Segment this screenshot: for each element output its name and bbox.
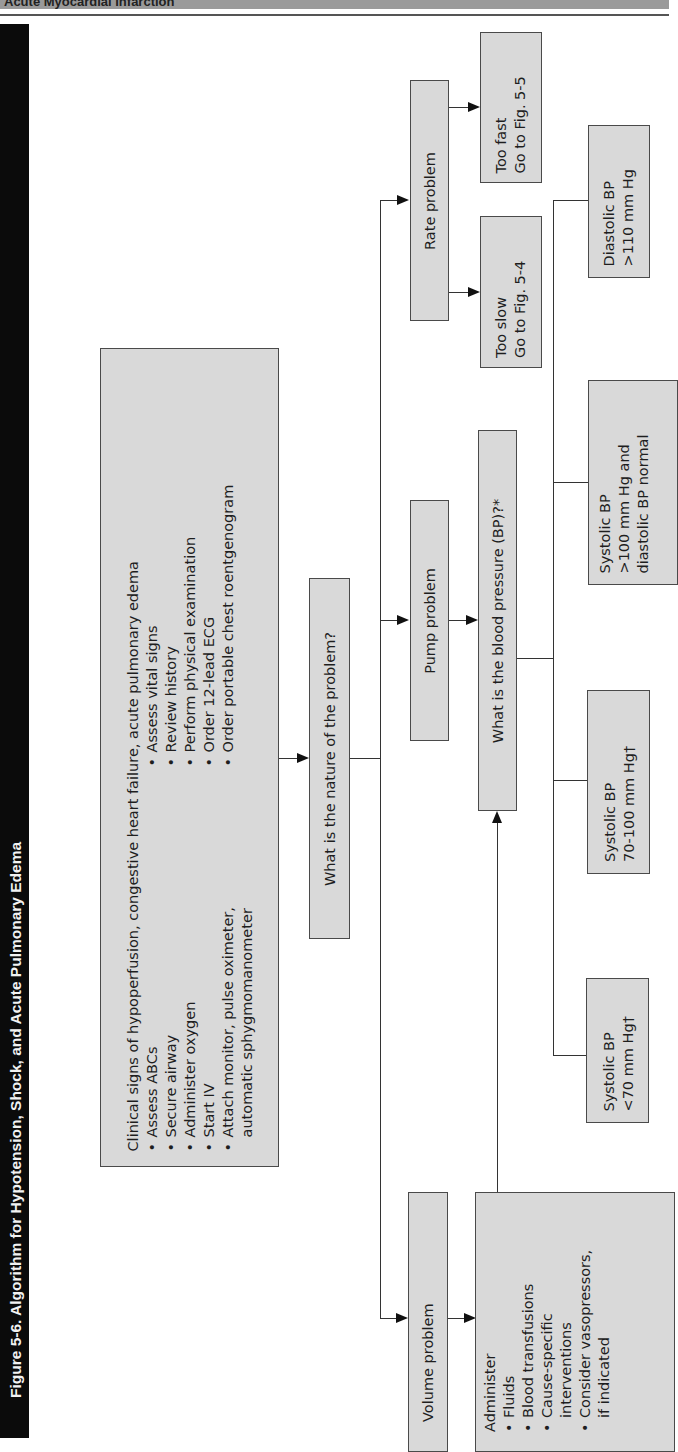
bp-question-box: What is the blood pressure (BP)?* [478, 430, 517, 811]
rate-problem-label: Rate problem [420, 80, 439, 321]
rate-problem-box: Rate problem [410, 80, 449, 321]
bp-branch-systolic-high: Systolic BP >100 mm Hg and diastolic BP … [588, 380, 678, 585]
bp-branch-line [553, 200, 554, 1056]
too-slow-box: Too slow Go to Fig. 5-4 [480, 216, 542, 368]
bp-branch-diastolic-high: Diastolic BP >110 mm Hg [588, 125, 650, 278]
actions-heading: Administer [481, 1192, 500, 1432]
connector-systolic-low [553, 1055, 587, 1056]
start-box: Clinical signs of hypoperfusion, congest… [100, 348, 279, 1167]
connector-trunk-pump [380, 620, 398, 621]
branch-line: diastolic BP normal [634, 380, 653, 573]
connector-trunk-rate [380, 200, 398, 201]
running-header: Acute Myocardial Infarction [0, 0, 669, 9]
connector-systolic-mid [553, 780, 587, 781]
arrow-right-icon [297, 753, 309, 763]
running-header-title: Acute Myocardial Infarction [4, 0, 174, 9]
pump-problem-box: Pump problem [410, 500, 449, 741]
too-fast-label: Too fast [492, 32, 511, 173]
branch-line: >100 mm Hg and [615, 380, 634, 573]
arrow-right-icon [397, 195, 409, 205]
too-fast-reference: Go to Fig. 5-5 [511, 32, 530, 173]
bp-question: What is the blood pressure (BP)?* [488, 430, 507, 811]
connector-rate-slow [449, 292, 469, 293]
branch-line: Systolic BP [599, 978, 618, 1111]
trunk-line [380, 200, 381, 1319]
branch-line: Diastolic BP [600, 125, 619, 266]
connector-trunk-volume [380, 1318, 397, 1319]
volume-actions-box: Administer •Fluids •Blood transfusions •… [475, 1192, 675, 1452]
too-fast-box: Too fast Go to Fig. 5-5 [480, 32, 542, 183]
branch-line: Systolic BP [596, 380, 615, 573]
volume-problem-label: Volume problem [419, 1202, 438, 1452]
connector-systolic-high [553, 482, 588, 483]
branch-line: 70-100 mm Hg† [619, 690, 638, 862]
connector-rate-fast [449, 107, 469, 108]
branch-line: >110 mm Hg [619, 125, 638, 266]
branch-line: Systolic BP [600, 690, 619, 862]
arrow-right-icon [468, 102, 480, 112]
nature-question-box: What is the nature of the problem? [309, 578, 350, 939]
figure-title-bar: Figure 5-6. Algorithm for Hypotension, S… [0, 24, 29, 1438]
pump-problem-label: Pump problem [420, 500, 439, 741]
volume-problem-box: Volume problem [408, 1192, 448, 1452]
arrow-right-icon [397, 615, 409, 625]
nature-question: What is the nature of the problem? [320, 578, 339, 939]
branch-line: <70 mm Hg† [618, 978, 637, 1111]
too-slow-label: Too slow [492, 216, 511, 358]
arrow-right-icon [396, 1313, 408, 1323]
arrow-up-icon [492, 811, 502, 823]
connector-diastolic [553, 200, 588, 201]
header-rule [0, 14, 669, 16]
arrow-right-icon [466, 615, 478, 625]
connector-pump-bp [449, 620, 467, 621]
too-slow-reference: Go to Fig. 5-4 [511, 216, 530, 358]
connector-start-nature [279, 758, 299, 759]
connector-nature-trunk [350, 758, 381, 759]
connector-volume-actions [448, 1318, 465, 1319]
bp-branch-systolic-low: Systolic BP <70 mm Hg† [586, 978, 649, 1123]
connector-bp-branches [517, 658, 554, 659]
figure-title: Figure 5-6. Algorithm for Hypotension, S… [0, 24, 29, 1438]
arrow-right-icon [468, 287, 480, 297]
start-heading: Clinical signs of hypoperfusion, congest… [123, 364, 142, 1151]
bp-branch-systolic-mid: Systolic BP 70-100 mm Hg† [587, 690, 650, 874]
connector-actions-bp [497, 822, 498, 1192]
